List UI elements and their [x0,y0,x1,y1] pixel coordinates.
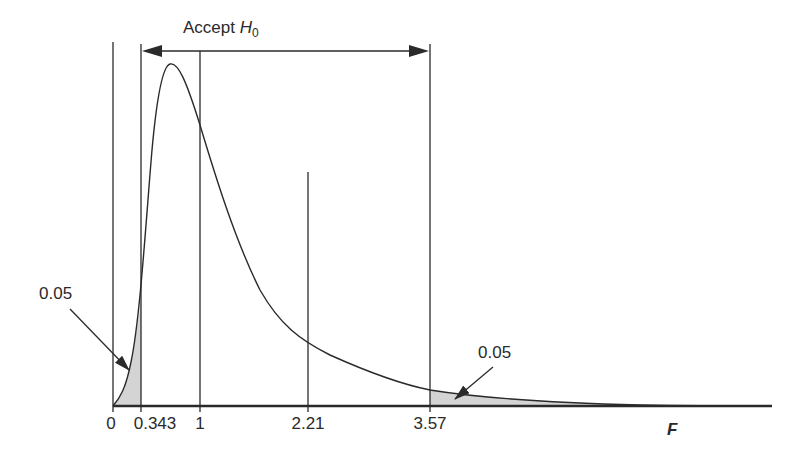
tick-label-3-57: 3.57 [413,414,446,434]
accept-arrow-right-head [409,45,429,57]
tick-label-1: 1 [195,414,204,434]
axis-variable-label: F [667,420,677,440]
hypothesis-subscript: 0 [252,26,259,40]
tick-label-2-21: 2.21 [291,414,324,434]
hypothesis-symbol: H [240,18,252,37]
accept-text: Accept [183,18,235,37]
accept-arrow-left-head [142,45,162,57]
left-tail-shade [113,300,141,406]
left-tail-pointer-arrow [70,309,129,370]
left-tail-area-label: 0.05 [39,284,72,304]
f-density-curve [113,64,772,406]
f-distribution-diagram [0,0,787,472]
tick-label-0: 0 [106,414,115,434]
accept-h0-label: Accept H0 [183,18,259,38]
right-tail-pointer-arrow [455,367,493,399]
right-tail-area-label: 0.05 [478,343,511,363]
tick-label-0-343: 0.343 [134,414,177,434]
